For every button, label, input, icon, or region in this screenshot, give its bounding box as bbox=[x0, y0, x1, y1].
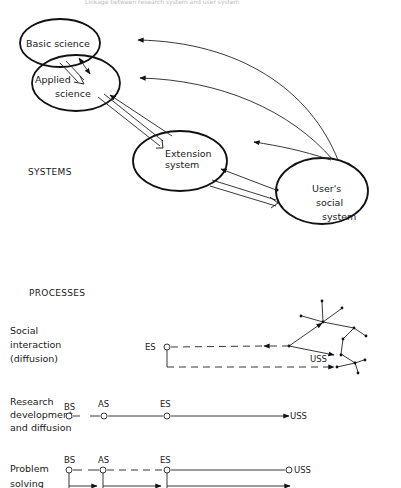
row-label-line: Social bbox=[10, 325, 38, 336]
extension-label-2: system bbox=[165, 159, 199, 170]
uss-label: USS bbox=[290, 411, 307, 421]
node-label-es: ES bbox=[145, 342, 156, 352]
applied-science-label-2: science bbox=[55, 88, 91, 99]
applied-science-label-1: Applied bbox=[35, 74, 71, 85]
node-as bbox=[101, 413, 107, 419]
row-label-line: interaction bbox=[10, 339, 61, 350]
systems-diagram: Basic science Applied science Extension … bbox=[20, 19, 368, 224]
systems-section-label: SYSTEMS bbox=[28, 167, 72, 177]
user-label-3: system bbox=[322, 211, 356, 222]
row-label-line: Research bbox=[10, 396, 54, 407]
extension-to-user-arrow bbox=[210, 180, 278, 208]
node-uss bbox=[286, 467, 292, 473]
node-bs bbox=[66, 413, 72, 419]
extension-to-applied-arrow bbox=[110, 95, 172, 136]
extension-label-1: Extension bbox=[165, 148, 212, 159]
node-label-bs: BS bbox=[64, 455, 75, 465]
user-to-extension-arrow bbox=[221, 169, 276, 190]
row-label-line: (diffusion) bbox=[10, 353, 58, 364]
diagram-canvas: Linkage between research system and user… bbox=[0, 0, 401, 488]
social-network-graph bbox=[288, 300, 368, 375]
user-label-2: social bbox=[316, 197, 343, 208]
basic-science-label: Basic science bbox=[26, 38, 90, 49]
node-label-bs: BS bbox=[64, 402, 75, 412]
uss-label: USS bbox=[310, 354, 327, 364]
node-label-as: AS bbox=[98, 455, 109, 465]
user-to-basic-feedback-arrow bbox=[138, 40, 338, 160]
process-row-problem-solving: Problem solving BS AS ES USS bbox=[10, 455, 311, 488]
node-as bbox=[100, 467, 106, 473]
node-label-as: AS bbox=[98, 399, 109, 409]
uss-label: USS bbox=[294, 465, 311, 475]
junction-dot bbox=[275, 188, 278, 191]
node-es bbox=[164, 344, 170, 350]
node-label-es: ES bbox=[160, 399, 171, 409]
cut-off-caption: Linkage between research system and user… bbox=[85, 0, 240, 6]
node-es bbox=[164, 467, 170, 473]
node-es bbox=[164, 413, 170, 419]
node-label-es: ES bbox=[160, 455, 171, 465]
node-bs bbox=[66, 467, 72, 473]
user-label-1: User's bbox=[312, 183, 341, 194]
row-label-line: solving bbox=[10, 478, 44, 488]
processes-section-label: PROCESSES bbox=[29, 288, 85, 298]
dashed-link bbox=[171, 346, 263, 347]
row-label-line: and diffusion bbox=[10, 422, 72, 433]
process-row-research-development: Research development and diffusion BS AS… bbox=[10, 396, 307, 433]
process-row-social-interaction: Social interaction (diffusion) ES bbox=[10, 300, 367, 375]
row-label-line: Problem bbox=[10, 463, 49, 474]
